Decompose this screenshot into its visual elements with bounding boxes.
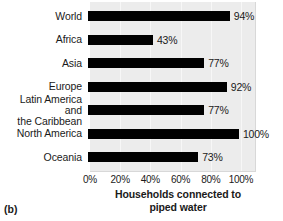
category-label: Europe [0, 81, 86, 92]
panel-label: (b) [4, 203, 17, 215]
x-tick-label: 20% [111, 174, 130, 185]
x-tick-label: 100% [229, 174, 253, 185]
x-axis-title: Households connected to piped water [78, 188, 278, 214]
bar-value-label: 77% [208, 102, 228, 118]
bar [88, 35, 153, 45]
bar [88, 129, 239, 139]
category-label: Oceania [0, 152, 86, 163]
figure-panel-b: World94%Africa43%Asia77%Europe92%Latin A… [0, 0, 283, 221]
category-label: North America [0, 128, 86, 139]
bar-row: Asia77% [0, 52, 283, 74]
x-axis: 0%20%40%60%80%100% [90, 174, 256, 188]
bar [88, 82, 227, 92]
category-label: Asia [0, 58, 86, 69]
bar-rows: World94%Africa43%Asia77%Europe92%Latin A… [0, 0, 283, 172]
bar-track: 100% [86, 123, 283, 145]
bar-value-label: 94% [234, 8, 254, 24]
x-tick-label: 40% [141, 174, 160, 185]
x-tick-label: 0% [83, 174, 97, 185]
bar-track: 73% [86, 146, 283, 168]
bar-row: Oceania73% [0, 146, 283, 168]
bar-value-label: 92% [231, 79, 251, 95]
bar-value-label: 73% [202, 149, 222, 165]
category-label: Africa [0, 34, 86, 45]
bar-track: 92% [86, 76, 283, 98]
bar [88, 11, 230, 21]
bar [88, 105, 204, 115]
bar-track: 43% [86, 29, 283, 51]
bar [88, 58, 204, 68]
bar-value-label: 77% [208, 55, 228, 71]
bar-row: World94% [0, 5, 283, 27]
bar-row: Africa43% [0, 29, 283, 51]
bar-track: 77% [86, 99, 283, 121]
bar [88, 152, 198, 162]
bar-row: Latin America and the Caribbean77% [0, 99, 283, 121]
category-label: World [0, 11, 86, 22]
bar-track: 94% [86, 5, 283, 27]
bar-value-label: 100% [243, 126, 269, 142]
bar-track: 77% [86, 52, 283, 74]
bar-value-label: 43% [157, 32, 177, 48]
bar-row: North America100% [0, 123, 283, 145]
x-tick-label: 80% [201, 174, 220, 185]
x-tick-label: 60% [171, 174, 190, 185]
